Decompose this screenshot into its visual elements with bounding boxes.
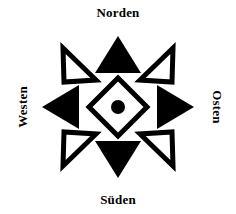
compass-point-east-icon xyxy=(157,85,194,129)
compass-label-east: Osten xyxy=(211,90,224,124)
compass-rose-figure: Norden Osten Süden Westen xyxy=(0,0,236,214)
compass-point-north-icon xyxy=(95,36,141,73)
compass-point-south-icon xyxy=(95,141,141,178)
compass-rose-svg xyxy=(30,24,206,190)
compass-point-west-icon xyxy=(42,85,79,129)
compass-center-dot-icon xyxy=(111,100,125,114)
compass-label-north: Norden xyxy=(0,6,236,19)
compass-label-west: Westen xyxy=(16,86,29,128)
compass-point-southwest-icon xyxy=(63,132,96,166)
compass-rose-graphic xyxy=(30,24,206,190)
compass-point-northeast-icon xyxy=(140,48,173,82)
compass-point-southeast-icon xyxy=(140,132,173,166)
compass-point-northwest-icon xyxy=(63,48,96,82)
compass-label-south: Süden xyxy=(0,193,236,206)
